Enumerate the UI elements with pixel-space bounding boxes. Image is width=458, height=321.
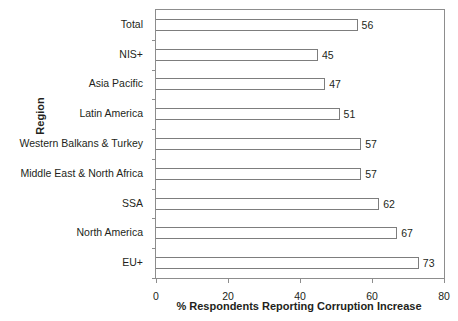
y-axis-tick (152, 99, 156, 100)
y-axis-tick (152, 129, 156, 130)
bar (156, 198, 379, 210)
y-axis-tick (152, 248, 156, 249)
y-axis-tick-label: Total (0, 18, 143, 30)
bar-value-label: 57 (365, 168, 377, 180)
bar (156, 49, 318, 61)
y-axis-tick-label: EU+ (0, 256, 143, 268)
bar (156, 168, 361, 180)
bar-value-label: 57 (365, 138, 377, 150)
y-axis-tick-label: Asia Pacific (0, 77, 143, 89)
bar-value-label: 73 (423, 257, 435, 269)
y-axis-tick-label: North America (0, 226, 143, 238)
bar (156, 108, 340, 120)
bar (156, 78, 325, 90)
bar-chart-figure: Region TotalNIS+Asia PacificLatin Americ… (0, 0, 458, 321)
y-axis-tick-label: NIS+ (0, 48, 143, 60)
bar (156, 257, 419, 269)
bar-value-label: 51 (344, 108, 356, 120)
y-axis-tick-label: Latin America (0, 107, 143, 119)
x-axis-tick (372, 278, 373, 283)
y-axis-tick (152, 159, 156, 160)
bar-value-label: 45 (322, 49, 334, 61)
y-axis-tick (152, 70, 156, 71)
y-axis-tick (152, 40, 156, 41)
x-axis-tick (444, 278, 445, 283)
x-axis-tick (300, 278, 301, 283)
y-axis-tick-label: Western Balkans & Turkey (0, 137, 143, 149)
x-axis-title: % Respondents Reporting Corruption Incre… (155, 299, 443, 313)
bar-value-label: 67 (401, 227, 413, 239)
plot-area: 564547515757626773020406080 (155, 9, 445, 279)
bar (156, 138, 361, 150)
bar (156, 227, 397, 239)
x-axis-tick (228, 278, 229, 283)
y-axis-tick-labels: TotalNIS+Asia PacificLatin AmericaWester… (4, 9, 150, 277)
y-axis-tick (152, 218, 156, 219)
bar-value-label: 62 (383, 198, 395, 210)
y-axis-tick-label: SSA (0, 197, 143, 209)
bar (156, 19, 358, 31)
bar-value-label: 47 (329, 78, 341, 90)
y-axis-tick (152, 189, 156, 190)
x-axis-tick (156, 278, 157, 283)
y-axis-tick-label: Middle East & North Africa (0, 167, 143, 179)
bar-value-label: 56 (362, 19, 374, 31)
